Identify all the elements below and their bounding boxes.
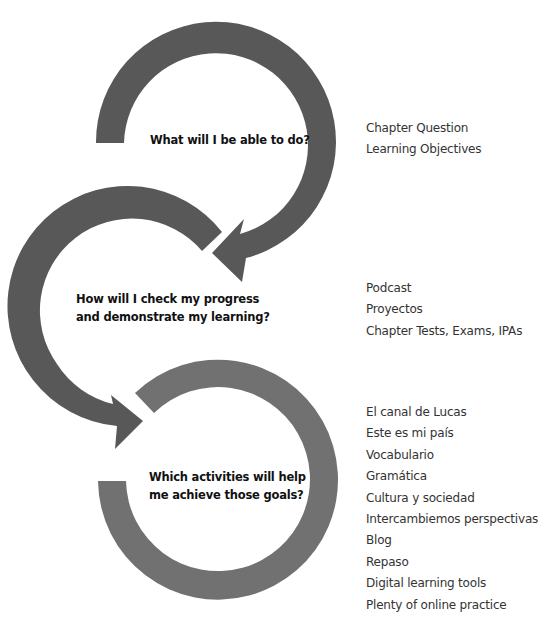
question-line: me achieve those goals? [149,486,306,504]
list-item: Chapter Question [366,118,481,139]
list-item: Blog [366,530,538,551]
arrow-step-1 [96,22,336,282]
question-line: and demonstrate my learning? [76,308,270,326]
question-line: How will I check my progress [76,290,270,308]
question-line: Which activities will help [149,468,306,486]
list-item: Chapter Tests, Exams, IPAs [366,321,522,342]
list-item: Proyectos [366,299,522,320]
list-item: Cultura y sociedad [366,488,538,509]
list-item: Plenty of online practice [366,595,538,616]
list-item: Este es mi país [366,423,538,444]
list-item: Repaso [366,552,538,573]
question-step-2: How will I check my progress and demonst… [76,290,270,326]
list-item: Intercambiemos perspectivas [366,509,538,530]
list-step-1: Chapter Question Learning Objectives [366,118,481,161]
list-step-3: El canal de Lucas Este es mi país Vocabu… [366,402,538,616]
list-item: Podcast [366,278,522,299]
question-step-3: Which activities will help me achieve th… [149,468,306,504]
list-item: El canal de Lucas [366,402,538,423]
list-item: Learning Objectives [366,139,481,160]
list-item: Digital learning tools [366,573,538,594]
question-step-1: What will I be able to do? [150,131,310,149]
list-step-2: Podcast Proyectos Chapter Tests, Exams, … [366,278,522,342]
list-item: Vocabulario [366,445,538,466]
list-item: Gramática [366,466,538,487]
